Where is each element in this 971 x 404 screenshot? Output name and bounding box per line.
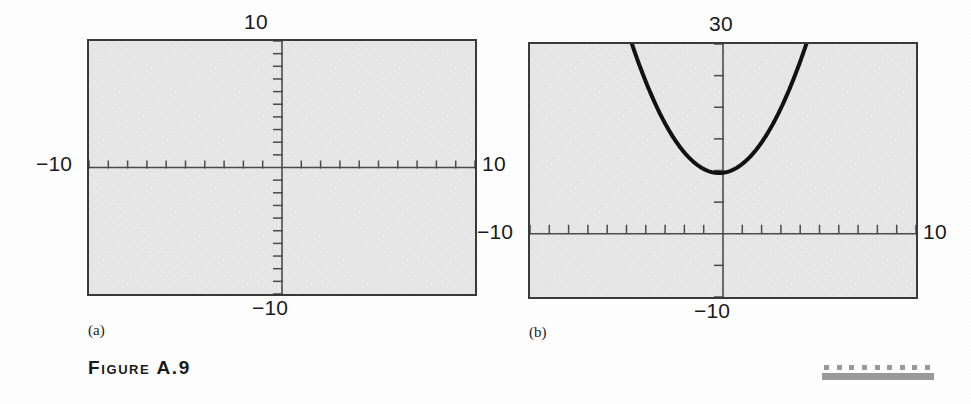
decorative-dot bbox=[875, 365, 880, 370]
axis-label-a-left: −10 bbox=[36, 153, 72, 174]
sub-caption-a: (a) bbox=[88, 323, 105, 338]
axis-label-b-right: 10 bbox=[923, 221, 947, 242]
plot-axes-b bbox=[530, 44, 916, 297]
decorative-dot bbox=[900, 365, 905, 370]
axis-label-b-bottom: −10 bbox=[694, 300, 730, 321]
decorative-dot bbox=[925, 365, 930, 370]
decorative-dot bbox=[912, 365, 917, 370]
decorative-dot bbox=[849, 365, 854, 370]
axis-label-a-top: 10 bbox=[244, 11, 268, 32]
axis-label-a-right: 10 bbox=[482, 153, 506, 174]
axis-label-b-top: 30 bbox=[709, 13, 733, 34]
plot-window-a bbox=[87, 39, 477, 296]
figure-caption: Figure A.9 bbox=[88, 358, 191, 377]
decorative-bar bbox=[822, 373, 934, 380]
sub-caption-b: (b) bbox=[529, 325, 547, 340]
plot-axes-a bbox=[89, 41, 475, 294]
plot-window-b bbox=[528, 42, 918, 299]
axis-label-b-left: −10 bbox=[477, 221, 513, 242]
axis-label-a-bottom: −10 bbox=[252, 297, 288, 318]
decorative-dot-row bbox=[824, 365, 930, 370]
decorative-dot bbox=[862, 365, 867, 370]
decorative-dot bbox=[824, 365, 829, 370]
decorative-dot bbox=[887, 365, 892, 370]
decorative-dot bbox=[837, 365, 842, 370]
decorative-rule bbox=[822, 365, 934, 380]
